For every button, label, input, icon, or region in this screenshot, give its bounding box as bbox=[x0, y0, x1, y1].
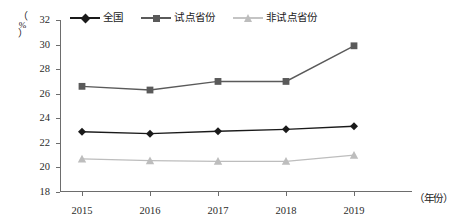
y-tick-label: 28 bbox=[40, 62, 51, 75]
y-tick-label: 20 bbox=[40, 160, 51, 173]
y-tick: 18 bbox=[56, 192, 60, 193]
diamond-marker-icon bbox=[214, 127, 222, 135]
y-tick-label: 32 bbox=[40, 13, 51, 26]
square-marker-icon bbox=[79, 83, 86, 90]
line-chart: 全国 试点省份 非试点省份 （ % ） 1820222426283032 201… bbox=[0, 0, 456, 221]
y-tick-label: 18 bbox=[40, 185, 51, 198]
plot-area: 1820222426283032 20152016201720182019 bbox=[60, 20, 412, 192]
square-marker-icon bbox=[147, 87, 154, 94]
diamond-marker-icon bbox=[282, 125, 290, 133]
y-tick-label: 24 bbox=[40, 111, 51, 124]
square-marker-icon bbox=[351, 42, 358, 49]
series-layer bbox=[60, 20, 412, 192]
diamond-marker-icon bbox=[350, 122, 358, 130]
x-tick: 2017 bbox=[218, 192, 219, 196]
x-axis-title: （年份） bbox=[414, 192, 452, 205]
y-unit-close-paren: ） bbox=[14, 31, 30, 37]
x-tick: 2019 bbox=[354, 192, 355, 196]
x-tick-label: 2019 bbox=[344, 204, 365, 217]
y-tick-label: 22 bbox=[40, 136, 51, 149]
x-tick-label: 2016 bbox=[140, 204, 161, 217]
square-marker-icon bbox=[215, 78, 222, 85]
x-tick-label: 2017 bbox=[208, 204, 229, 217]
diamond-marker-icon bbox=[146, 130, 154, 138]
series-3 bbox=[78, 151, 358, 165]
x-tick: 2016 bbox=[150, 192, 151, 196]
x-tick: 2018 bbox=[286, 192, 287, 196]
series-2 bbox=[79, 42, 358, 93]
diamond-marker-icon bbox=[78, 128, 86, 136]
square-marker-icon bbox=[283, 78, 290, 85]
x-tick: 2015 bbox=[82, 192, 83, 196]
y-axis-unit-label: （ % ） bbox=[14, 14, 30, 37]
x-tick-label: 2015 bbox=[72, 204, 93, 217]
y-tick-label: 26 bbox=[40, 87, 51, 100]
y-tick-label: 30 bbox=[40, 38, 51, 51]
series-1 bbox=[78, 122, 358, 137]
x-tick-label: 2018 bbox=[276, 204, 297, 217]
